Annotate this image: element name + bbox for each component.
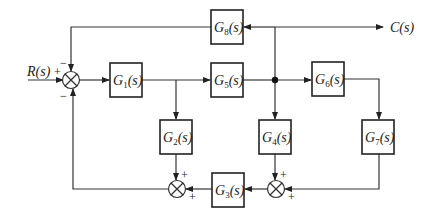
sign-s3-top: + — [280, 168, 287, 182]
wire-g7-s3 — [285, 154, 379, 189]
pickoff-node — [272, 77, 278, 83]
block-diagram: + − − + + + + G8(s) G1(s) G5(s) G6(s) G2… — [0, 0, 428, 219]
sign-s2-top: + — [181, 168, 188, 182]
wire-s2-s1 — [73, 89, 168, 189]
output-label: C(s) — [390, 20, 414, 36]
svg-text:G4(s): G4(s) — [262, 130, 292, 147]
svg-text:G5(s): G5(s) — [214, 73, 244, 90]
svg-text:G2(s): G2(s) — [163, 130, 193, 147]
sign-s1-top: − — [60, 56, 67, 70]
summing-junction-s1 — [63, 72, 80, 89]
block-g7: G7(s) — [362, 120, 395, 154]
block-g5: G5(s) — [211, 63, 244, 97]
block-g2: G2(s) — [160, 120, 193, 154]
svg-text:G6(s): G6(s) — [315, 72, 345, 89]
sign-s1-bottom: − — [60, 89, 67, 103]
sign-s2-right: + — [189, 190, 196, 204]
wire-g6-g7 — [344, 79, 379, 119]
svg-text:G3(s): G3(s) — [215, 183, 245, 200]
sign-s3-right: + — [288, 190, 295, 204]
svg-text:G8(s): G8(s) — [214, 20, 244, 37]
input-label: R(s) — [26, 64, 51, 80]
block-g1: G1(s) — [110, 63, 143, 97]
summing-junction-s2 — [169, 181, 186, 198]
block-g3: G3(s) — [212, 173, 245, 207]
svg-text:G1(s): G1(s) — [113, 73, 143, 90]
svg-text:G7(s): G7(s) — [365, 130, 395, 147]
block-g8: G8(s) — [211, 10, 244, 44]
block-g6: G6(s) — [312, 62, 345, 96]
block-g4: G4(s) — [259, 120, 292, 154]
summing-junction-s3 — [268, 181, 285, 198]
